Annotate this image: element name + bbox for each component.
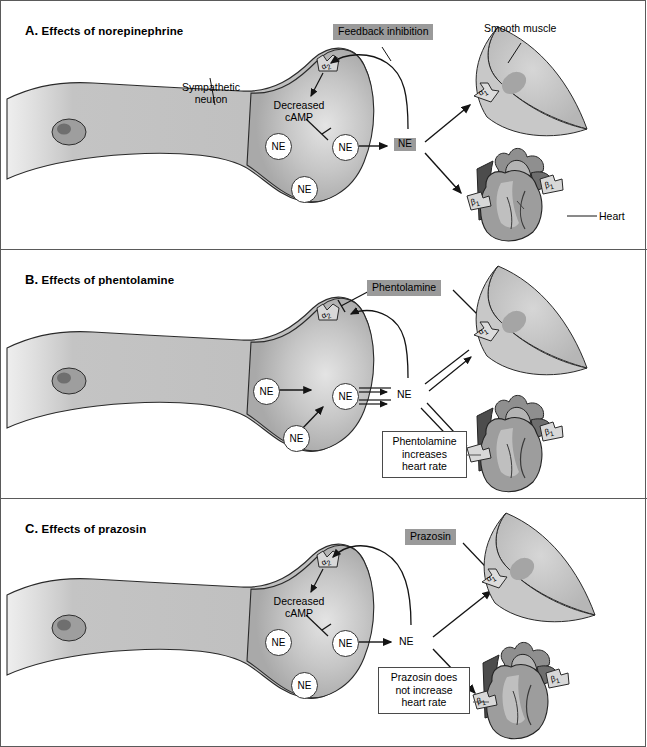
ne-vesicle-2: NE bbox=[291, 176, 318, 203]
heart-label: Heart bbox=[599, 210, 625, 222]
ne-vesicle-2: NE bbox=[283, 425, 310, 452]
ne-vesicle-2: NE bbox=[291, 672, 318, 699]
ne-membrane-bound: NE bbox=[332, 630, 359, 657]
panel-c-letter: C. bbox=[25, 521, 38, 536]
heart-shape bbox=[473, 642, 569, 738]
ne-vesicle-1: NE bbox=[253, 378, 280, 405]
panel-b-phentolamine: B. Effects of phentolamine Phentolamine … bbox=[1, 250, 647, 499]
smooth-muscle-shape bbox=[476, 266, 587, 375]
ne-membrane-bound: NE bbox=[332, 134, 359, 161]
panel-c-title-text: Effects of prazosin bbox=[42, 523, 147, 535]
arrow-ne-to-heart bbox=[425, 153, 461, 193]
panel-a-title: A. Effects of norepinephrine bbox=[25, 23, 183, 38]
sympathetic-neuron-label: Sympathetic neuron bbox=[169, 81, 253, 105]
panel-b-title-text: Effects of phentolamine bbox=[42, 274, 175, 286]
arrow-ne-to-alpha1 bbox=[425, 105, 470, 142]
smooth-muscle-shape bbox=[484, 513, 595, 622]
panel-a-norepinephrine: A. Effects of norepinephrine Feedback in… bbox=[1, 1, 647, 250]
arrow-ne-to-alpha1-double bbox=[425, 350, 471, 391]
panel-c-title: C. Effects of prazosin bbox=[25, 521, 146, 536]
panel-c-graphics bbox=[1, 499, 647, 746]
panel-b-graphics bbox=[1, 250, 647, 499]
arrow-ne-to-alpha1 bbox=[433, 591, 491, 637]
panel-c-prazosin: C. Effects of prazosin Prazosin Decrease… bbox=[1, 499, 647, 746]
smooth-muscle-shape bbox=[476, 27, 587, 136]
smooth-muscle-label: Smooth muscle bbox=[484, 22, 556, 34]
panel-a-graphics bbox=[1, 1, 647, 250]
decreased-camp-label: Decreased cAMP bbox=[266, 99, 332, 123]
heart-shape bbox=[467, 148, 563, 241]
panel-a-letter: A. bbox=[25, 23, 38, 38]
phentolamine-chip: Phentolamine bbox=[367, 280, 441, 296]
panel-b-title: B. Effects of phentolamine bbox=[25, 272, 174, 287]
decreased-camp-label: Decreased cAMP bbox=[266, 595, 332, 619]
ne-membrane-bound: NE bbox=[332, 383, 359, 410]
ne-vesicle-1: NE bbox=[265, 133, 292, 160]
phentolamine-heart-rate-note: Phentolamine increases heart rate bbox=[382, 431, 467, 478]
ne-synaptic-cleft: NE bbox=[399, 635, 414, 647]
heart-shape bbox=[467, 395, 563, 491]
feedback-inhibition-chip: Feedback inhibition bbox=[333, 24, 433, 40]
ne-synaptic-cleft: NE bbox=[394, 138, 416, 151]
prazosin-heart-rate-note: Prazosin does not increase heart rate bbox=[378, 667, 470, 714]
ne-synaptic-cleft: NE bbox=[397, 388, 412, 400]
panel-b-letter: B. bbox=[25, 272, 38, 287]
panel-a-title-text: Effects of norepinephrine bbox=[42, 25, 184, 37]
ne-vesicle-1: NE bbox=[265, 629, 292, 656]
prazosin-chip: Prazosin bbox=[405, 529, 456, 545]
